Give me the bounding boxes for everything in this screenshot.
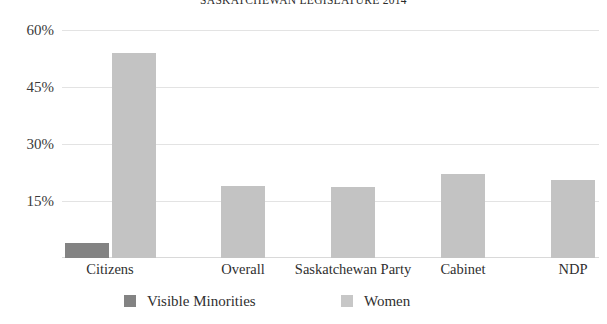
bar: [441, 174, 485, 258]
bar: [112, 53, 156, 258]
y-axis-tick-label: 15%: [0, 194, 54, 209]
bar: [551, 180, 595, 258]
chart-title: SASKATCHEWAN LEGISLATURE 2014: [0, 0, 607, 6]
chart-legend: Visible MinoritiesWomen: [0, 291, 607, 313]
bar: [331, 187, 375, 258]
legend-label: Visible Minorities: [147, 294, 256, 309]
bar: [221, 186, 265, 258]
plot-area: [62, 30, 599, 258]
gridline: [62, 30, 599, 31]
y-axis-tick-label: 30%: [0, 137, 54, 152]
x-axis-label: NDP: [483, 262, 607, 277]
legend-item[interactable]: Visible Minorities: [124, 291, 256, 311]
y-axis-tick-label: 45%: [0, 80, 54, 95]
legend-label: Women: [364, 294, 410, 309]
bar-chart: SASKATCHEWAN LEGISLATURE 2014 60%45%30%1…: [0, 0, 607, 324]
legend-item[interactable]: Women: [341, 291, 410, 311]
y-axis-tick-label: 60%: [0, 23, 54, 38]
legend-swatch-icon: [341, 295, 353, 307]
legend-swatch-icon: [124, 295, 136, 307]
bar: [65, 243, 109, 258]
